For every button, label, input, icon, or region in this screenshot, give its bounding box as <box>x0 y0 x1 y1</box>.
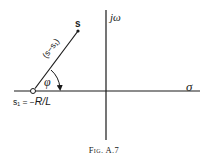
point-s-label: s <box>75 19 81 29</box>
angle-phi-arc <box>51 70 60 88</box>
s-plane-diagram: s jω σ φ (s−s₁) s₁ = −R/L Fig. A.7 <box>0 0 208 162</box>
pole-s1-prefix: s₁ = − <box>13 97 35 107</box>
pole-s1-label: s₁ = −R/L <box>13 96 51 107</box>
point-s-marker <box>76 29 79 32</box>
pole-s1-value: R/L <box>35 95 51 107</box>
angle-phi-label: φ <box>44 76 51 88</box>
real-axis-label: σ <box>186 80 192 93</box>
figure-caption: Fig. A.7 <box>0 146 208 155</box>
imaginary-axis-label: jω <box>110 12 121 23</box>
diagram-canvas <box>0 0 208 162</box>
pole-s1-marker <box>31 89 36 94</box>
